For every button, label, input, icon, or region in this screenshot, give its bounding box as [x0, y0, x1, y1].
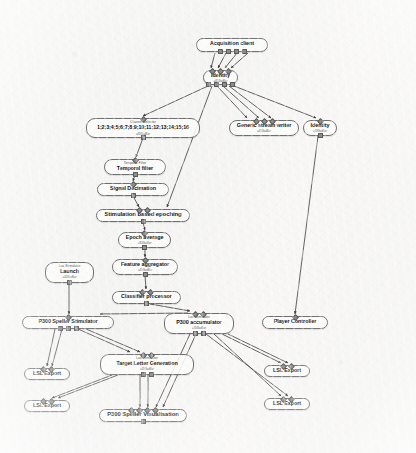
node-title: Temporal filter: [110, 165, 160, 172]
node-classifier-processor[interactable]: Classifier processor: [112, 291, 181, 304]
node-lsl-export-left-2[interactable]: LSL Export: [24, 400, 70, 412]
node-identity-top[interactable]: Identity=IDGuiBar: [203, 70, 238, 85]
node-subtitle: =IDGuiBar: [106, 367, 188, 371]
node-title: Identity: [209, 72, 232, 79]
node-title: P300 Speller Visualisation: [105, 411, 181, 418]
node-title: Epoch average: [124, 234, 165, 241]
node-caption: Channel Selector: [89, 120, 196, 124]
node-acquisition-client[interactable]: Acquisition client: [196, 38, 268, 52]
node-identity-right[interactable]: Identity=IDGuiBar: [303, 120, 337, 136]
node-title: Classifier processor: [118, 293, 175, 300]
node-signal-decimation[interactable]: Signal Decimation: [97, 183, 169, 196]
node-target-letter-generation[interactable]: Lua StimulatorTarget Letter Generation=I…: [100, 354, 194, 375]
node-title: Target Letter Generation: [106, 360, 188, 367]
node-title: 1;2;3;4;5;6;7;8;9;10;11;12;13;14;15;16: [92, 124, 194, 131]
node-subtitle: =IDGuiBar: [235, 129, 293, 133]
node-caption: Temporal Filter: [109, 161, 162, 165]
node-title: Acquisition client: [202, 40, 262, 47]
node-temporal-filter[interactable]: Temporal FilterTemporal filter: [104, 159, 166, 175]
node-subtitle: =IDGuiBar: [170, 326, 228, 330]
node-title: LSL Export: [270, 367, 304, 374]
node-subtitle: =IDGuiBar: [51, 275, 88, 279]
node-title: LSL Export: [30, 370, 64, 377]
node-player-controller[interactable]: Player Controller: [262, 316, 328, 329]
node-subtitle: =IDGuiBar: [209, 79, 232, 83]
node-p300-speller-visualisation[interactable]: P300 Speller Visualisation: [99, 409, 187, 422]
node-subtitle: =IDGuiBar: [309, 129, 331, 133]
node-caption: Lua Stimulator: [104, 356, 190, 360]
node-title: Stimulation based epoching: [102, 211, 184, 218]
node-lsl-export-right-2[interactable]: LSL Export: [264, 398, 310, 410]
node-title: Generic stream writer: [235, 122, 293, 129]
node-launch[interactable]: Lua StimulatorLaunch=IDGuiBar: [45, 262, 94, 283]
node-title: Signal Decimation: [103, 185, 163, 192]
node-title: Feature aggregator: [118, 261, 172, 268]
node-epoch-average[interactable]: Epoch average=IDGuiBar: [118, 232, 171, 248]
node-channel-selector[interactable]: Channel Selector1;2;3;4;5;6;7;8;9;10;11;…: [86, 118, 200, 138]
connection-links-layer: [0, 0, 416, 453]
node-title: P300 accumulator: [170, 319, 228, 326]
node-subtitle: =IDGuiBar: [124, 241, 165, 245]
node-title: Identity: [309, 122, 331, 129]
node-subtitle: =IDGuiBar: [92, 132, 194, 136]
node-stimulation-based-epoching[interactable]: Stimulation based epoching: [96, 209, 190, 222]
node-title: P300 Speller Stimulator: [28, 318, 108, 325]
node-p300-speller-stimulator[interactable]: P300 Speller Stimulator: [22, 316, 114, 329]
node-title: LSL Export: [30, 402, 64, 409]
node-p300-accumulator[interactable]: Lua StimulatorP300 accumulator=IDGuiBar: [164, 313, 234, 334]
node-lsl-export-left-1[interactable]: LSL Export: [24, 368, 70, 380]
node-generic-stream-writer[interactable]: Generic stream writer=IDGuiBar: [229, 120, 299, 136]
node-lsl-export-right-1[interactable]: LSL Export: [264, 365, 310, 377]
node-feature-aggregator[interactable]: Feature aggregator=IDGuiBar: [112, 259, 178, 275]
node-caption: Lua Stimulator: [169, 315, 230, 319]
node-caption: Lua Stimulator: [50, 264, 89, 268]
node-title: LSL Export: [270, 400, 304, 407]
node-title: Player Controller: [268, 318, 322, 325]
node-title: Launch: [51, 268, 88, 275]
scenario-designer-canvas[interactable]: Acquisition clientIdentity=IDGuiBarChann…: [0, 0, 416, 453]
node-subtitle: =IDGuiBar: [118, 268, 172, 272]
